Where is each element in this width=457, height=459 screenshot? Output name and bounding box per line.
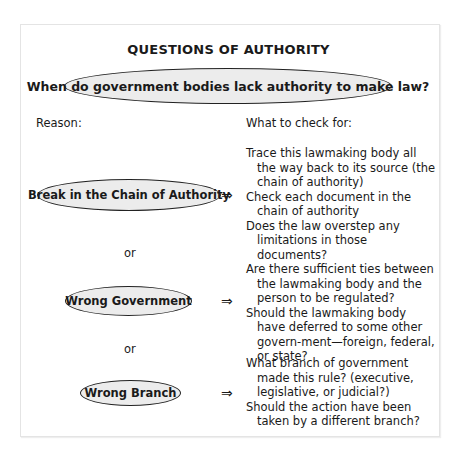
right-double-arrow-icon: ⇒ — [221, 188, 233, 202]
reason-oval-chain-of-authority: Break in the Chain of Authority — [37, 179, 221, 211]
main-question-text: When do government bodies lack authority… — [27, 79, 430, 94]
check-column-label: What to check for: — [246, 116, 352, 130]
check-item: Does the law overstep any limitations in… — [246, 219, 436, 263]
reason-oval-wrong-branch: Wrong Branch — [80, 380, 181, 406]
check-item: Trace this lawmaking body all the way ba… — [246, 146, 436, 190]
check-list-chain-of-authority: Trace this lawmaking body all the way ba… — [246, 146, 436, 262]
check-item: Check each document in the chain of auth… — [246, 190, 436, 219]
or-connector: or — [124, 342, 136, 356]
check-item: Should the lawmaking body have deferred … — [246, 306, 436, 364]
check-item: Should the action have been taken by a d… — [246, 400, 436, 429]
page-title: QUESTIONS OF AUTHORITY — [0, 42, 457, 57]
check-list-wrong-government: Are there sufficient ties between the la… — [246, 262, 436, 364]
main-question-oval: When do government bodies lack authority… — [64, 68, 392, 104]
reason-oval-wrong-government: Wrong Government — [65, 286, 192, 316]
check-item: What branch of government made this rule… — [246, 356, 436, 400]
reason-column-label: Reason: — [36, 116, 82, 130]
reason-label: Wrong Government — [65, 294, 191, 308]
or-connector: or — [124, 246, 136, 260]
right-double-arrow-icon: ⇒ — [221, 386, 233, 400]
check-list-wrong-branch: What branch of government made this rule… — [246, 356, 436, 429]
right-double-arrow-icon: ⇒ — [221, 294, 233, 308]
check-item: Are there sufficient ties between the la… — [246, 262, 436, 306]
reason-label: Wrong Branch — [85, 386, 177, 400]
reason-label: Break in the Chain of Authority — [28, 188, 230, 202]
